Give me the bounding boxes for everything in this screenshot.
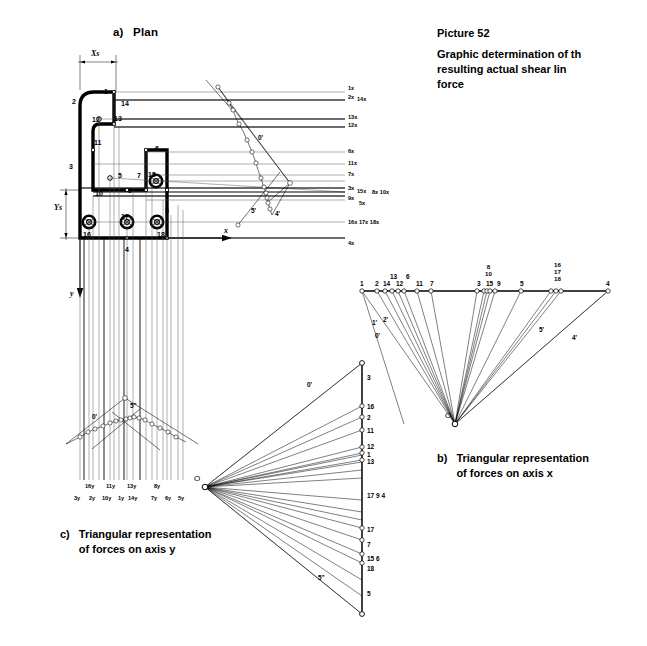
chart-c-closing-ray <box>205 487 362 580</box>
plan-ray-label: 9x <box>348 196 354 202</box>
chart-c-force-node <box>360 445 364 449</box>
plan-outline-label: 4 <box>125 246 129 253</box>
plan-outline-label: 17 <box>121 213 129 220</box>
chart-c-node-label: 7 <box>367 542 371 549</box>
chart-c-closing-ray <box>205 487 362 512</box>
chart-b-pole-ray <box>455 291 556 424</box>
plan-outline-label: 7 <box>137 172 141 179</box>
plan-outline-label: 16 <box>83 231 91 238</box>
plan-outline-label: 5 <box>118 172 122 179</box>
chart-c-force-node <box>360 552 364 556</box>
plan-ray-label: 6x <box>348 149 354 155</box>
chart-b-node-label: 9 <box>497 281 501 288</box>
chart-b-node-label: 2 <box>375 281 379 288</box>
plan-y-force-label: 10y <box>102 496 111 502</box>
chart-c-force-node <box>360 404 364 408</box>
chart-b-pole <box>452 421 458 427</box>
panel-b-title: b) Triangular representation of forces o… <box>437 452 589 479</box>
panel-b-title-line-1: Triangular representation <box>456 452 589 464</box>
plan-funicular-label: 5' <box>251 208 256 215</box>
caption-line-3: force <box>437 78 581 90</box>
chart-b-node-label: 7 <box>430 281 434 288</box>
axis-label-x: x <box>224 226 228 235</box>
chart-c-pole-ray <box>205 460 362 487</box>
plan-y-force-label: 5y <box>178 496 184 502</box>
chart-c-node-label: 17 <box>367 527 374 534</box>
plan-funicular-label: 0' <box>258 135 263 142</box>
plan-ray-label: 3x <box>348 186 354 192</box>
chart-b-ray-label: 4' <box>572 335 577 342</box>
plan-outline-label: 9 <box>128 187 132 194</box>
chart-b-stacked-label-line: 18 <box>554 276 561 283</box>
chart-b-force-node <box>475 289 479 293</box>
chart-b-node-label: 3 <box>477 281 481 288</box>
chart-c-pole-ray <box>205 487 362 528</box>
plan-ray-label: 5x <box>359 201 365 207</box>
plan-vertical-ray-heavy <box>84 238 140 480</box>
funicular-polygon-x <box>206 80 290 225</box>
chart-b-pole-ray <box>404 291 455 424</box>
chart-c-force-node <box>360 526 364 530</box>
chart-b-pole-ray <box>431 291 455 424</box>
chart-c-pole <box>202 484 208 490</box>
plan-outline-label: 10 <box>95 190 103 197</box>
chart-b-ray-label: 5' <box>539 327 544 334</box>
plan-ray-label: 12x <box>348 123 357 129</box>
panel-a-letter: a) <box>113 26 124 38</box>
plan-outline-label: 2 <box>72 98 76 105</box>
plan-outline-label: 5 <box>165 207 169 214</box>
chart-c-closing-ray <box>205 487 362 614</box>
chart-c-node-label: 2 <box>367 415 371 422</box>
plan-ray-label: 8x 10x <box>372 190 389 196</box>
chart-b-stacked-label-line: 10 <box>485 271 492 278</box>
chart-b-stacked-label: 161718 <box>554 262 561 283</box>
chart-c-pole-ray <box>205 487 362 554</box>
figure-caption-block: Picture 52 Graphic determination of th r… <box>437 27 581 90</box>
plan-ray-label: 1x <box>348 86 354 92</box>
chart-b-node-label: 4 <box>606 281 610 288</box>
chart-c-node-label: 13 <box>367 459 374 466</box>
chart-c-pole-ray <box>205 406 362 487</box>
plan-outline-label: 12 <box>92 116 100 123</box>
plan-funicular-label: 4' <box>275 211 280 218</box>
chart-c-node-label: 15 6 <box>367 556 380 563</box>
chart-b-pole-ray <box>455 291 521 424</box>
plan-y-force-label: 11y <box>106 484 115 490</box>
plan-y-funicular-label: 0' <box>92 414 97 421</box>
plan-ray-label: 7x <box>348 172 354 178</box>
chart-c-force-node <box>360 451 364 455</box>
chart-c-node-label: 16 <box>367 404 374 411</box>
chart-b-force-node <box>402 289 406 293</box>
plan-axes <box>77 235 232 298</box>
chart-b-force-node <box>519 289 523 293</box>
chart-b-ray-label: 2' <box>383 317 388 324</box>
plan-y-force-label: 13y <box>127 484 136 490</box>
plan-outline-label: 6 <box>155 145 159 152</box>
chart-b-node-label: 12 <box>396 281 403 288</box>
panel-c-title: c) Triangular representation of forces o… <box>60 528 211 555</box>
picture-number: Picture 52 <box>437 27 581 39</box>
chart-b-pole-ray <box>398 291 455 424</box>
chart-b-closing-ray <box>455 291 608 424</box>
chart-b-force-node <box>390 289 394 293</box>
caption-line-1: Graphic determination of th <box>437 48 581 60</box>
chart-c-force-node <box>360 428 364 432</box>
plan-ray-label: 13x <box>348 115 357 121</box>
plan-outline-label: 11 <box>94 139 101 146</box>
chart-b-force-node <box>429 289 433 293</box>
chart-b-pole-rays <box>362 291 608 424</box>
chart-b-force-node <box>606 289 610 293</box>
chart-c-pole-ray <box>205 453 362 487</box>
chart-c-node-label: 12 <box>367 444 374 451</box>
chart-b-node-label: 6 <box>406 274 410 281</box>
chart-b-pole-ray <box>377 291 455 424</box>
plan-y-funicular-label: 5" <box>130 403 137 410</box>
chart-b-force-node <box>493 289 497 293</box>
chart-b-force-node <box>488 289 492 293</box>
chart-c-node-label: 17 9 4 <box>367 493 385 500</box>
chart-c-pole-label: O <box>194 474 200 483</box>
chart-c-node-label: 3 <box>367 375 371 382</box>
plan-horizontal-projection-rays <box>80 92 345 238</box>
plan-ray-label: 15x <box>357 189 366 195</box>
plan-y-force-label: 7y <box>151 496 157 502</box>
